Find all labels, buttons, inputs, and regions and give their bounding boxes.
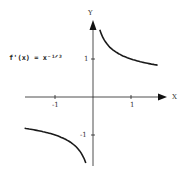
equation-label: f'(x) = x⁻¹ᐟ³ (9, 55, 63, 62)
chart-figure: f'(x) = x⁻¹ᐟ³ Y X -1 1 1 -1 (0, 0, 188, 175)
y-axis-label: Y (88, 10, 93, 17)
y-tick-label-neg1: -1 (80, 132, 87, 139)
curve-right-branch (100, 30, 158, 65)
x-tick-label-pos1: 1 (130, 102, 134, 109)
x-axis-arrow-icon (158, 94, 167, 101)
y-axis-arrow-icon (90, 20, 97, 30)
x-axis-label: X (172, 94, 177, 101)
chart-canvas (0, 0, 188, 175)
curve-left-branch (25, 128, 86, 163)
y-tick-label-pos1: 1 (84, 56, 88, 63)
x-tick-label-neg1: -1 (52, 102, 59, 109)
